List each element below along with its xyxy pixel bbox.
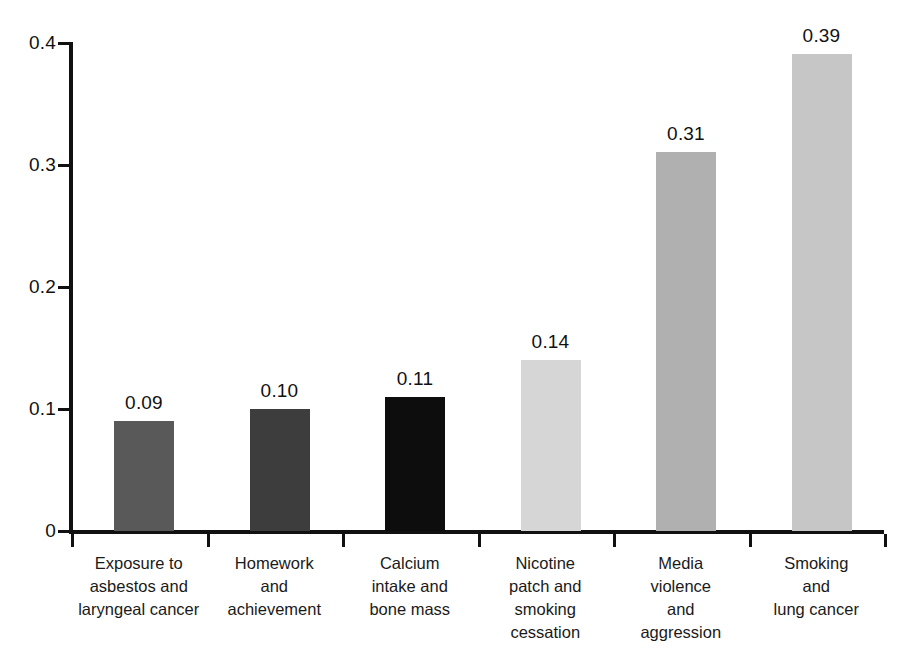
bar-value-label-2: 0.10	[220, 381, 340, 400]
x-axis-label-1-line-1: Exposure to	[63, 552, 215, 575]
bar-value-label-4: 0.14	[491, 332, 611, 351]
x-tick-mark-2	[207, 534, 210, 547]
x-axis-label-4: Nicotinepatch andsmokingcessation	[470, 552, 622, 644]
x-axis-label-6-line-3: lung cancer	[741, 598, 893, 621]
x-tick-mark-6	[749, 534, 752, 547]
x-axis-label-5-line-2: violence	[605, 575, 757, 598]
x-axis-label-1-line-2: asbestos and	[63, 575, 215, 598]
x-axis-label-4-line-2: patch and	[470, 575, 622, 598]
x-axis-label-5-line-4: aggression	[605, 621, 757, 644]
x-tick-mark-5	[613, 534, 616, 547]
x-axis-label-4-line-1: Nicotine	[470, 552, 622, 575]
x-axis-label-3-line-3: bone mass	[334, 598, 486, 621]
x-axis-label-4-line-4: cessation	[470, 621, 622, 644]
bar-5	[656, 152, 716, 531]
x-axis-label-6-line-1: Smoking	[741, 552, 893, 575]
bar-value-label-5: 0.31	[626, 124, 746, 143]
x-axis-label-2: Homeworkandachievement	[199, 552, 351, 621]
bar-value-label-3: 0.11	[355, 369, 475, 388]
bar-1	[114, 421, 174, 531]
x-axis-label-4-line-3: smoking	[470, 598, 622, 621]
x-axis-label-5-line-3: and	[605, 598, 757, 621]
bar-4	[521, 360, 581, 531]
x-tick-mark-4	[478, 534, 481, 547]
bar-value-label-6: 0.39	[762, 26, 882, 45]
x-axis-label-1: Exposure toasbestos andlaryngeal cancer	[63, 552, 215, 621]
x-axis-label-5: Mediaviolenceandaggression	[605, 552, 757, 644]
x-axis-label-5-line-1: Media	[605, 552, 757, 575]
x-axis-label-6-line-2: and	[741, 575, 893, 598]
bar-chart: 0.4 0.3 0.2 0.1 0 0.090.100.110.140.310.…	[0, 0, 911, 663]
x-axis-label-2-line-1: Homework	[199, 552, 351, 575]
x-axis-label-2-line-3: achievement	[199, 598, 351, 621]
bar-value-label-1: 0.09	[84, 393, 204, 412]
x-tick-mark-end	[884, 534, 887, 547]
x-axis-label-1-line-3: laryngeal cancer	[63, 598, 215, 621]
x-tick-mark-1	[71, 534, 74, 547]
x-axis-label-6: Smokingandlung cancer	[741, 552, 893, 621]
x-axis-label-3-line-1: Calcium	[334, 552, 486, 575]
x-axis-label-3-line-2: intake and	[334, 575, 486, 598]
bar-2	[250, 409, 310, 531]
plot-area: 0.090.100.110.140.310.39	[0, 0, 911, 531]
x-axis-label-2-line-2: and	[199, 575, 351, 598]
x-axis-label-3: Calciumintake andbone mass	[334, 552, 486, 621]
bar-6	[792, 54, 852, 531]
x-tick-mark-3	[342, 534, 345, 547]
bar-3	[385, 397, 445, 531]
